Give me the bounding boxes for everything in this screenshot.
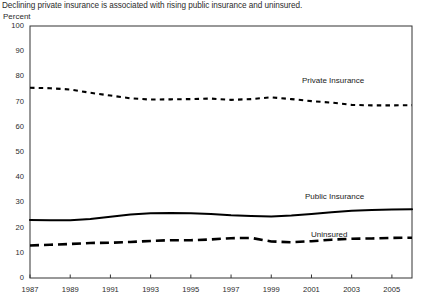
series-line-public-insurance [30,209,412,220]
series-label-public-insurance: Public Insurance [305,192,364,201]
series-label-private-insurance: Private Insurance [302,76,364,85]
chart-figure: Declining private insurance is associate… [0,0,423,303]
plot-area [0,0,423,303]
series-line-private-insurance [30,88,412,106]
series-label-uninsured: Uninsured [311,230,347,239]
plot-frame [30,26,412,278]
series-line-uninsured [30,238,412,246]
x-axis-ticks [30,275,392,279]
